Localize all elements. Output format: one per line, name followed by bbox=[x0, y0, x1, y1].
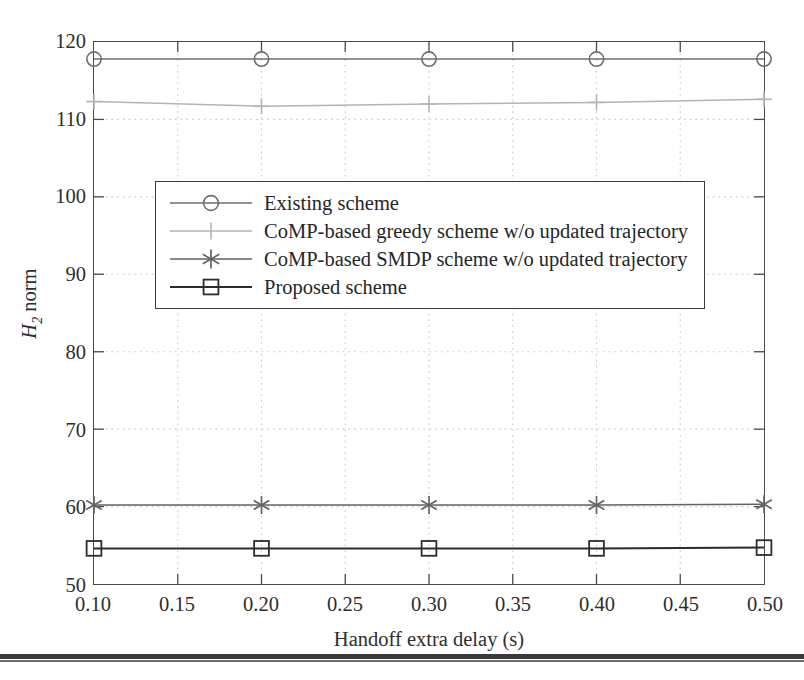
y-axis-title: H2 norm bbox=[18, 244, 45, 364]
legend-item-label: CoMP-based greedy scheme w/o updated tra… bbox=[254, 221, 688, 242]
legend-item-label: Existing scheme bbox=[254, 193, 399, 214]
series-4 bbox=[87, 540, 772, 556]
y-tick-label: 60 bbox=[28, 497, 86, 518]
plus-marker-icon bbox=[86, 94, 102, 110]
x-tick-label: 0.15 bbox=[159, 594, 195, 615]
footer-rule-thin bbox=[0, 660, 804, 662]
data-series-layer bbox=[94, 42, 764, 584]
plus-marker-icon bbox=[756, 91, 772, 107]
x-tick-label: 0.10 bbox=[75, 594, 111, 615]
x-axis-tick-labels: 0.10 0.15 0.20 0.25 0.30 0.35 0.40 0.45 … bbox=[93, 594, 765, 622]
plus-marker-icon bbox=[421, 96, 437, 112]
figure-chart: 50 60 70 80 90 100 110 120 H2 norm bbox=[0, 0, 804, 680]
y-tick-label: 120 bbox=[28, 31, 86, 52]
plot-area: Existing scheme CoMP-based greedy scheme… bbox=[93, 41, 765, 585]
legend-item-label: CoMP-based SMDP scheme w/o updated traje… bbox=[254, 249, 687, 270]
x-tick-label: 0.50 bbox=[747, 594, 783, 615]
legend-box: Existing scheme CoMP-based greedy scheme… bbox=[155, 181, 705, 309]
asterisk-marker-icon bbox=[168, 247, 254, 271]
series-2 bbox=[86, 91, 772, 114]
legend-item-proposed-scheme[interactable]: Proposed scheme bbox=[156, 273, 704, 301]
plus-marker-icon bbox=[254, 98, 270, 114]
plus-marker-icon bbox=[589, 94, 605, 110]
y-tick-label: 110 bbox=[28, 108, 86, 129]
legend-item-comp-greedy[interactable]: CoMP-based greedy scheme w/o updated tra… bbox=[156, 217, 704, 245]
x-tick-label: 0.25 bbox=[327, 594, 363, 615]
x-tick-label: 0.20 bbox=[243, 594, 279, 615]
legend-item-comp-smdp[interactable]: CoMP-based SMDP scheme w/o updated traje… bbox=[156, 245, 704, 273]
x-tick-label: 0.45 bbox=[663, 594, 699, 615]
legend-item-existing-scheme[interactable]: Existing scheme bbox=[156, 189, 704, 217]
footer-rule bbox=[0, 654, 804, 659]
y-tick-label: 100 bbox=[28, 186, 86, 207]
plus-marker-icon bbox=[168, 219, 254, 243]
series-3 bbox=[86, 495, 772, 514]
circle-marker-icon bbox=[168, 191, 254, 215]
series-line bbox=[94, 548, 764, 549]
square-marker-icon bbox=[168, 275, 254, 299]
x-tick-label: 0.30 bbox=[411, 594, 447, 615]
x-tick-label: 0.40 bbox=[579, 594, 615, 615]
x-axis-title: Handoff extra delay (s) bbox=[93, 628, 765, 651]
legend-item-label: Proposed scheme bbox=[254, 277, 407, 298]
series-1 bbox=[87, 52, 771, 66]
x-tick-label: 0.35 bbox=[495, 594, 531, 615]
y-tick-label: 70 bbox=[28, 419, 86, 440]
